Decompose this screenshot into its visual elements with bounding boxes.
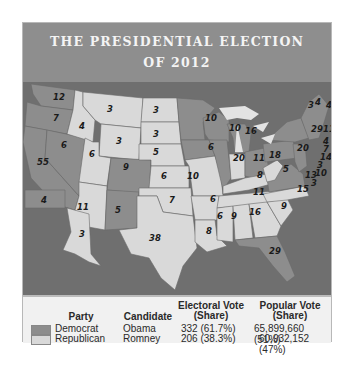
svg-text:55: 55 <box>37 157 49 167</box>
svg-text:20: 20 <box>297 143 309 153</box>
title-bar: THE PRESIDENTIAL ELECTION OF 2012 <box>23 23 331 82</box>
svg-text:9: 9 <box>123 162 129 172</box>
svg-text:4: 4 <box>40 195 47 205</box>
electoral-header-line2: (Share) <box>173 311 249 321</box>
republican-swatch <box>31 335 51 345</box>
state-fl <box>235 236 295 282</box>
svg-text:5: 5 <box>115 205 121 215</box>
svg-text:3: 3 <box>107 104 113 114</box>
legend-header-popular: Popular Vote (Share) <box>251 301 329 321</box>
map-svg: 12755 643 3611 953 356 73810 6106 81020 … <box>23 82 331 295</box>
state-nm <box>105 190 139 230</box>
svg-text:10: 10 <box>187 171 199 181</box>
democrat-swatch <box>31 325 51 335</box>
svg-text:6: 6 <box>61 140 67 150</box>
legend-header-party: Party <box>56 312 106 322</box>
popular-romney: 60,932,152 (47%) <box>259 333 331 355</box>
svg-text:10: 10 <box>315 168 327 178</box>
svg-text:3: 3 <box>308 100 314 110</box>
svg-text:11: 11 <box>77 202 89 212</box>
svg-text:8: 8 <box>206 226 212 236</box>
svg-text:8: 8 <box>257 170 263 180</box>
svg-text:11: 11 <box>253 187 265 197</box>
svg-text:3: 3 <box>153 105 159 115</box>
svg-text:6: 6 <box>208 142 214 152</box>
svg-text:10: 10 <box>229 123 241 133</box>
svg-text:9: 9 <box>231 211 237 221</box>
svg-text:29: 29 <box>311 124 323 134</box>
title-line-1: THE PRESIDENTIAL ELECTION <box>23 34 331 49</box>
svg-text:16: 16 <box>245 126 257 136</box>
svg-text:3: 3 <box>79 229 85 239</box>
title-line-2: OF 2012 <box>23 55 331 70</box>
svg-text:9: 9 <box>281 201 287 211</box>
svg-text:12: 12 <box>53 92 65 102</box>
state-ks <box>149 166 189 188</box>
svg-text:16: 16 <box>249 207 261 217</box>
us-electoral-map: 12755 643 3611 953 356 73810 6106 81020 … <box>23 82 331 295</box>
electoral-romney: 206 (38.3%) <box>181 333 235 344</box>
legend-header-electoral: Electoral Vote (Share) <box>173 301 249 321</box>
election-figure: THE PRESIDENTIAL ELECTION OF 2012 <box>22 22 332 342</box>
svg-text:6: 6 <box>89 149 95 159</box>
svg-text:4: 4 <box>78 121 85 131</box>
svg-text:11: 11 <box>323 124 331 134</box>
svg-text:38: 38 <box>149 233 161 243</box>
svg-text:6: 6 <box>210 194 216 204</box>
svg-text:5: 5 <box>153 147 159 157</box>
svg-text:18: 18 <box>269 150 281 160</box>
svg-text:3: 3 <box>311 178 317 188</box>
svg-text:3: 3 <box>116 136 122 146</box>
svg-text:3: 3 <box>153 129 159 139</box>
svg-text:15: 15 <box>297 184 309 194</box>
popular-header-line2: (Share) <box>251 311 329 321</box>
svg-text:6: 6 <box>161 171 167 181</box>
svg-text:7: 7 <box>169 195 175 205</box>
candidate-romney: Romney <box>123 333 160 344</box>
svg-text:4: 4 <box>325 100 331 110</box>
svg-text:20: 20 <box>233 153 245 163</box>
party-republican: Republican <box>55 333 105 344</box>
svg-text:7: 7 <box>53 113 59 123</box>
svg-text:29: 29 <box>269 246 281 256</box>
svg-text:11: 11 <box>253 153 265 163</box>
svg-text:6: 6 <box>217 211 223 221</box>
svg-text:5: 5 <box>283 164 289 174</box>
state-sd <box>141 122 181 144</box>
svg-text:10: 10 <box>205 113 217 123</box>
state-nd <box>141 98 179 122</box>
legend-table: Party Candidate Electoral Vote (Share) P… <box>23 295 331 343</box>
svg-text:4: 4 <box>314 97 321 107</box>
